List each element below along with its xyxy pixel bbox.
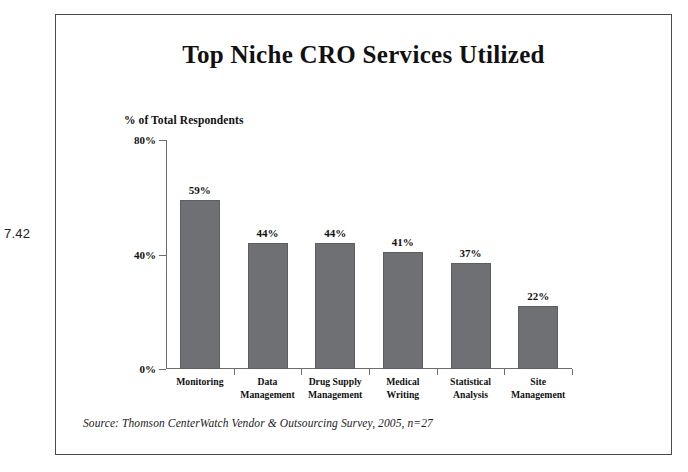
bar [315, 243, 355, 369]
x-axis-tick [301, 369, 302, 375]
x-axis-tick [234, 369, 235, 375]
bar-item: 37%StatisticalAnalysis [451, 140, 491, 369]
bar-item: 22%SiteManagement [518, 140, 558, 369]
y-axis-tick [159, 140, 166, 141]
y-axis-tick-label: 40% [134, 249, 156, 261]
y-axis-line [166, 140, 167, 369]
bar-value-label: 37% [437, 247, 505, 259]
y-axis-tick-label: 80% [134, 134, 156, 146]
y-axis-tick-label: 0% [140, 363, 157, 375]
bar [383, 252, 423, 369]
x-axis-tick [437, 369, 438, 375]
y-axis-tick [159, 255, 166, 256]
bar-value-label: 41% [369, 236, 437, 248]
bar-item: 59%Monitoring [180, 140, 220, 369]
y-axis-title: % of Total Respondents [124, 114, 243, 126]
source-note: Source: Thomson CenterWatch Vendor & Out… [83, 417, 433, 429]
bar-item: 41%MedicalWriting [383, 140, 423, 369]
bar-value-label: 44% [234, 227, 302, 239]
plot-area: 0%40%80% 59%Monitoring44%DataManagement4… [166, 140, 572, 369]
x-axis-category-line: Site [496, 376, 580, 389]
figure-number: 7.42 [4, 226, 30, 241]
x-axis-tick [504, 369, 505, 375]
bar-value-label: 22% [504, 290, 572, 302]
y-axis-tick [159, 369, 166, 370]
bar-item: 44%DataManagement [248, 140, 288, 369]
x-axis-tick [369, 369, 370, 375]
x-axis-category-label: SiteManagement [496, 376, 580, 401]
chart-title: Top Niche CRO Services Utilized [56, 41, 671, 69]
bar-value-label: 44% [301, 227, 369, 239]
bar [518, 306, 558, 369]
bar [248, 243, 288, 369]
chart-container: Top Niche CRO Services Utilized % of Tot… [55, 14, 672, 455]
bar-value-label: 59% [166, 184, 234, 196]
x-axis-tick [572, 369, 573, 375]
bar-item: 44%Drug SupplyManagement [315, 140, 355, 369]
bar [180, 200, 220, 369]
x-axis-category-line: Management [496, 389, 580, 402]
bar [451, 263, 491, 369]
